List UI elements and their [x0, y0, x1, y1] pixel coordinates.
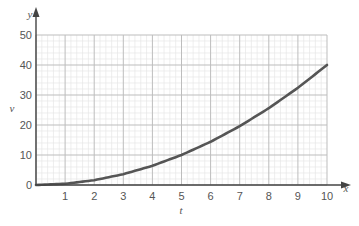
- line-chart: 12345678910 01020304050 t v x y: [0, 0, 359, 226]
- x-tick-label: 8: [266, 190, 272, 202]
- y-axis-end-label: y: [27, 8, 33, 20]
- x-tick-label: 3: [120, 190, 126, 202]
- x-tick-label: 7: [237, 190, 243, 202]
- x-tick-label: 10: [321, 190, 333, 202]
- y-tick-label: 30: [20, 89, 32, 101]
- y-axis-arrow-icon: [33, 7, 40, 17]
- y-axis-label: v: [10, 102, 15, 114]
- y-tick-label: 40: [20, 59, 32, 71]
- x-tick-label: 4: [149, 190, 155, 202]
- y-tick-label: 50: [20, 29, 32, 41]
- x-tick-label: 1: [62, 190, 68, 202]
- y-tick-labels: 01020304050: [20, 29, 32, 191]
- y-tick-label: 10: [20, 149, 32, 161]
- x-tick-label: 6: [208, 190, 214, 202]
- y-tick-label: 20: [20, 119, 32, 131]
- x-tick-label: 5: [178, 190, 184, 202]
- x-axis-label: t: [179, 204, 183, 216]
- x-tick-labels: 12345678910: [62, 190, 333, 202]
- x-axis-end-label: x: [343, 182, 349, 194]
- x-tick-label: 9: [295, 190, 301, 202]
- y-tick-label: 0: [26, 179, 32, 191]
- x-tick-label: 2: [91, 190, 97, 202]
- major-grid: [36, 35, 327, 185]
